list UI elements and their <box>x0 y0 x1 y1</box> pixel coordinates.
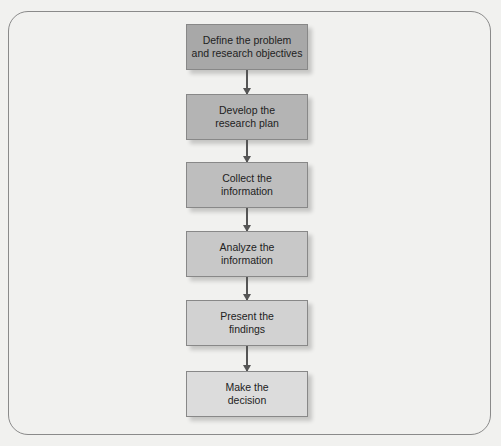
step-define-problem: Define the problem and research objectiv… <box>186 24 308 70</box>
arrow-down-3 <box>246 208 248 231</box>
step-make-decision: Make the decision <box>186 371 308 417</box>
arrow-down-4 <box>246 277 248 300</box>
arrow-down-5 <box>246 346 248 371</box>
step-collect-information: Collect the information <box>186 162 308 208</box>
arrow-down-1 <box>246 70 248 94</box>
step-develop-plan: Develop the research plan <box>186 94 308 140</box>
step-analyze-information: Analyze the information <box>186 231 308 277</box>
step-present-findings: Present the findings <box>186 300 308 346</box>
arrow-down-2 <box>246 140 248 162</box>
